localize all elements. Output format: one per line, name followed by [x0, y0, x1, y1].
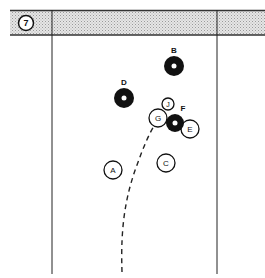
stone-g: G [149, 109, 167, 127]
stone-label: J [166, 101, 170, 108]
stone-label: C [163, 159, 169, 168]
diagram-number-badge: 7 [19, 16, 34, 31]
stone-label: B [171, 46, 177, 55]
stone-label: E [187, 125, 192, 134]
header-band [10, 10, 265, 35]
stone-d: D [114, 78, 134, 108]
stone-label: A [110, 166, 116, 175]
stone-c: C [157, 154, 175, 172]
curling-diagram: 7 ABCDEFGJ [0, 0, 265, 278]
delivery-path [122, 126, 154, 272]
stone-label: G [155, 114, 161, 123]
stone-j: J [162, 98, 174, 110]
diagram-number: 7 [23, 18, 28, 28]
stone-b: B [164, 46, 184, 76]
stone-label: F [181, 104, 186, 113]
stone-label: D [121, 78, 127, 87]
stones-layer: ABCDEFGJ [104, 46, 199, 179]
stone-a: A [104, 161, 122, 179]
